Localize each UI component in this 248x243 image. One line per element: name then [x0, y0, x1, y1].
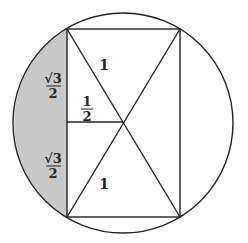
label-lower-numerator: √3 — [44, 151, 62, 166]
label-bottom-diagonal: 1 — [99, 176, 109, 192]
shaded-segment — [14, 29, 67, 217]
geometry-diagram: 1 1 1 2 √3 2 √3 2 — [0, 0, 248, 243]
label-lower-denominator: 2 — [48, 166, 57, 181]
label-half-numerator: 1 — [82, 94, 91, 109]
label-upper-numerator: √3 — [44, 71, 62, 86]
label-half-denominator: 2 — [82, 109, 91, 124]
label-upper-denominator: 2 — [48, 86, 57, 101]
label-half: 1 2 — [81, 94, 93, 124]
label-top-diagonal: 1 — [99, 57, 109, 73]
